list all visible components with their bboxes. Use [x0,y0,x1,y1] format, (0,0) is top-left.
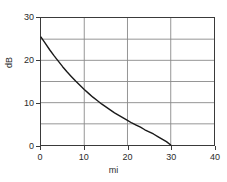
y-tick-label: 20 [14,56,34,65]
plot-area [40,17,215,146]
x-tick-label: 40 [203,153,227,162]
y-tick-label: 30 [14,13,34,22]
y-tick-mark [36,60,40,61]
y-tick-mark [36,17,40,18]
y-tick-label: 0 [14,142,34,151]
y-tick-mark [36,103,40,104]
x-tick-label: 20 [116,153,140,162]
x-tick-label: 30 [159,153,183,162]
y-tick-label: 10 [14,99,34,108]
x-tick-mark [84,146,85,150]
x-tick-mark [40,146,41,150]
chart-figure: 0102030 010203040 dB mi [0,0,227,182]
x-tick-mark [215,146,216,150]
x-axis-label: mi [0,166,227,175]
y-axis-label: dB [5,57,14,68]
x-tick-label: 0 [28,153,52,162]
data-curve [41,18,214,145]
x-tick-mark [128,146,129,150]
x-tick-mark [171,146,172,150]
x-tick-label: 10 [72,153,96,162]
